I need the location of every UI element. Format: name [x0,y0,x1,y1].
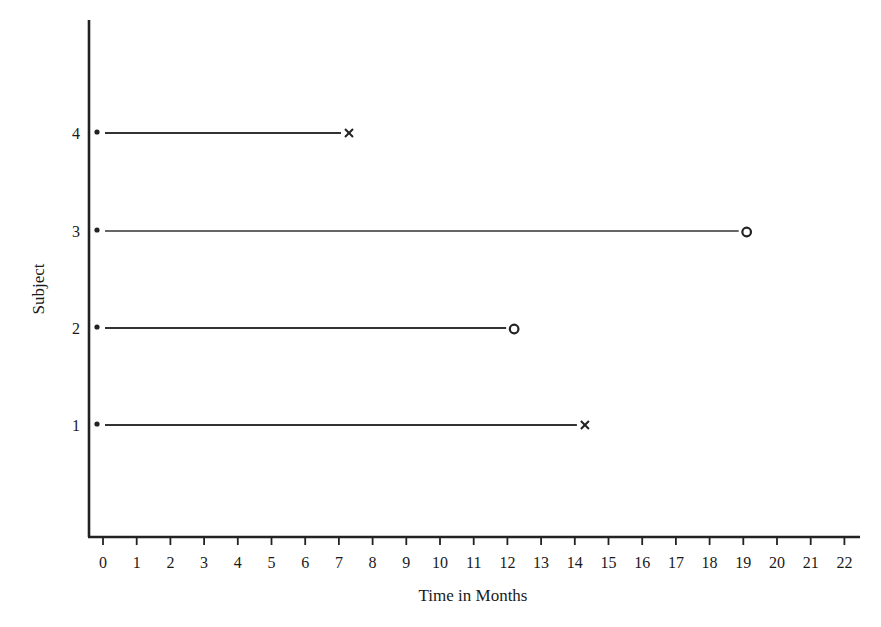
x-tick-label: 0 [99,554,107,571]
start-dot-icon [94,421,99,426]
x-tick-label: 1 [133,554,141,571]
y-tick-label: 4 [72,125,80,142]
x-tick-label: 3 [200,554,208,571]
x-tick-label: 2 [166,554,174,571]
subject-lines [94,129,751,429]
x-tick-label: 20 [769,554,785,571]
subject-line-1 [94,421,589,429]
x-tick-label: 10 [432,554,448,571]
censored-o-icon [510,325,519,334]
subject-line-2 [94,324,518,333]
censored-o-icon [742,228,751,237]
x-tick-label: 13 [533,554,549,571]
y-tick-label: 1 [72,417,80,434]
y-tick-label: 3 [72,223,80,240]
axes [88,20,860,537]
x-tick-label: 18 [702,554,718,571]
x-tick-label: 15 [601,554,617,571]
x-tick-label: 6 [301,554,309,571]
x-tick-label: 21 [803,554,819,571]
y-axis-ticks: 1234 [72,125,80,434]
start-dot-icon [94,129,99,134]
x-tick-label: 9 [402,554,410,571]
x-tick-label: 14 [567,554,583,571]
x-axis-title: Time in Months [419,586,528,605]
x-tick-label: 22 [836,554,852,571]
y-axis-title: Subject [29,263,48,314]
x-tick-label: 19 [735,554,751,571]
x-tick-label: 16 [634,554,650,571]
x-tick-label: 11 [466,554,481,571]
x-tick-label: 17 [668,554,684,571]
subject-line-3 [94,227,751,236]
x-tick-label: 12 [499,554,515,571]
x-tick-label: 4 [234,554,242,571]
x-axis-ticks: 012345678910111213141516171819202122 [99,537,852,571]
subject-line-4 [94,129,353,137]
x-tick-label: 7 [335,554,343,571]
x-tick-label: 5 [268,554,276,571]
y-tick-label: 2 [72,320,80,337]
start-dot-icon [94,227,99,232]
x-tick-label: 8 [369,554,377,571]
start-dot-icon [94,324,99,329]
subject-timeline-chart: 012345678910111213141516171819202122 123… [0,0,881,627]
